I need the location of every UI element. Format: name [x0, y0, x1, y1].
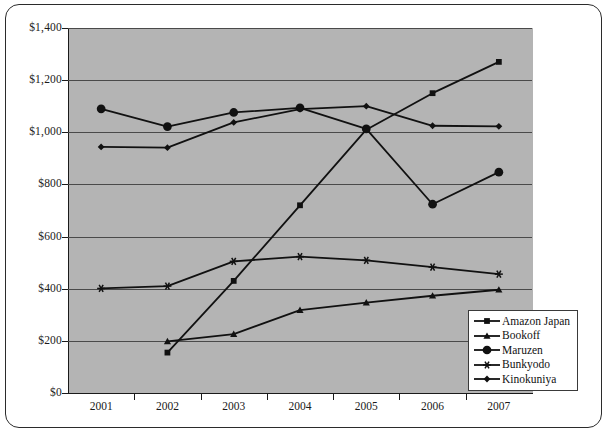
square-marker-icon [472, 314, 502, 328]
data-point-diamond-marker [429, 122, 436, 129]
data-point-diamond-marker [363, 103, 370, 110]
data-point-circle-marker [494, 168, 503, 177]
data-point-diamond-marker [230, 119, 237, 126]
legend-item-amazon-japan: Amazon Japan [472, 314, 573, 329]
data-point-asterisk-marker [495, 271, 503, 278]
series-kinokuniya [98, 103, 503, 151]
data-point-circle-marker [428, 200, 437, 209]
data-point-asterisk-marker [429, 264, 437, 271]
legend-item-label: Maruzen [502, 345, 543, 357]
data-point-square-marker [165, 350, 171, 356]
legend-item-label: Bunkyodo [502, 359, 550, 371]
legend-item-label: Kinokuniya [502, 374, 556, 386]
data-point-square-marker [231, 278, 237, 284]
data-point-asterisk-marker [296, 253, 304, 260]
data-point-asterisk-marker [163, 283, 171, 290]
series-line [101, 108, 499, 204]
data-point-asterisk-marker [230, 258, 238, 265]
diamond-marker-icon [472, 372, 502, 386]
data-point-asterisk-marker [362, 257, 370, 264]
legend-item-label: Bookoff [502, 330, 540, 342]
legend-item-maruzen: Maruzen [472, 343, 573, 358]
data-point-square-marker [430, 90, 436, 96]
asterisk-marker-icon [472, 358, 502, 372]
data-point-circle-marker [97, 104, 106, 113]
triangle-marker-icon [472, 329, 502, 343]
series-line [167, 62, 498, 353]
data-point-square-marker [496, 59, 502, 65]
data-point-circle-marker [362, 125, 371, 134]
data-point-diamond-marker [98, 143, 105, 150]
line-chart: $0$200$400$600$800$1,000$1,200$1,400 200… [0, 0, 609, 434]
series-amazon-japan [165, 59, 502, 355]
data-point-diamond-marker [164, 144, 171, 151]
legend-item-bunkyodo: Bunkyodo [472, 358, 573, 373]
legend-item-label: Amazon Japan [502, 316, 570, 328]
legend-item-bookoff: Bookoff [472, 329, 573, 344]
legend: Amazon JapanBookoffMaruzenBunkyodoKinoku… [468, 310, 578, 391]
data-point-diamond-marker [495, 123, 502, 130]
legend-item-kinokuniya: Kinokuniya [472, 372, 573, 387]
data-point-circle-marker [229, 108, 238, 117]
data-point-circle-marker [163, 122, 172, 131]
series-bookoff [164, 286, 503, 344]
series-line [101, 257, 499, 289]
data-point-square-marker [297, 202, 303, 208]
data-point-asterisk-marker [97, 285, 105, 292]
circle-marker-icon [472, 343, 502, 357]
series-bunkyodo [97, 253, 503, 292]
series-maruzen [97, 103, 503, 208]
figure: $0$200$400$600$800$1,000$1,200$1,400 200… [0, 0, 609, 434]
